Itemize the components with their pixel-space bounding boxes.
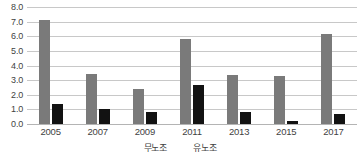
bar-2015-series1[interactable] — [287, 121, 298, 124]
bar-2007-series0[interactable] — [86, 74, 97, 124]
bar-2005-series1[interactable] — [52, 104, 63, 124]
x-axis-tick-label: 2007 — [74, 125, 121, 139]
plot-area — [27, 7, 357, 124]
bar-2009-series0[interactable] — [133, 89, 144, 124]
bar-2013-series1[interactable] — [240, 112, 251, 124]
y-axis-tick-label: 2.0 — [11, 90, 23, 99]
bar-2011-series1[interactable] — [193, 85, 204, 124]
bar-group — [263, 7, 310, 124]
y-axis-tick-label: 4.0 — [11, 61, 23, 70]
x-axis-tick-label: 2009 — [121, 125, 168, 139]
y-axis-tick-label: 8.0 — [11, 3, 23, 12]
bar-2017-series1[interactable] — [334, 114, 345, 124]
bar-group — [310, 7, 357, 124]
y-axis-tick-label: 6.0 — [11, 32, 23, 41]
bar-2013-series0[interactable] — [227, 75, 238, 124]
bar-2017-series0[interactable] — [321, 34, 332, 124]
y-axis-tick-label: 1.0 — [11, 105, 23, 114]
y-axis: 0.01.02.03.04.05.06.07.08.0 — [0, 0, 26, 124]
y-axis-tick-label: 7.0 — [11, 17, 23, 26]
bar-chart: 0.01.02.03.04.05.06.07.08.0 200520072009… — [0, 0, 360, 159]
legend: 무노조유노조 — [0, 140, 360, 156]
bar-2011-series0[interactable] — [180, 39, 191, 124]
y-axis-tick-label: 3.0 — [11, 76, 23, 85]
x-axis: 2005200720092011201320152017 — [27, 125, 357, 139]
x-axis-tick-label: 2005 — [27, 125, 74, 139]
y-axis-tick-label: 5.0 — [11, 46, 23, 55]
x-axis-tick-label: 2013 — [216, 125, 263, 139]
legend-item-1: 유노조 — [193, 140, 216, 156]
bar-group — [27, 7, 74, 124]
y-axis-tick-label: 0.0 — [11, 120, 23, 129]
legend-item-0: 무노조 — [144, 140, 167, 156]
bar-group — [121, 7, 168, 124]
bar-group — [74, 7, 121, 124]
bar-2015-series0[interactable] — [274, 76, 285, 124]
bar-group — [168, 7, 215, 124]
bar-2009-series1[interactable] — [146, 112, 157, 124]
x-axis-tick-label: 2011 — [168, 125, 215, 139]
x-axis-tick-label: 2017 — [310, 125, 357, 139]
bar-groups — [27, 7, 357, 124]
bar-2005-series0[interactable] — [39, 20, 50, 124]
bar-group — [216, 7, 263, 124]
x-axis-tick-label: 2015 — [263, 125, 310, 139]
bar-2007-series1[interactable] — [99, 109, 110, 124]
